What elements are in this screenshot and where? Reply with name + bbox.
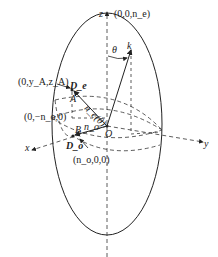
de-label: D_e — [69, 80, 87, 91]
a-coordinate-label: (0,y_A,z_A) — [18, 76, 69, 88]
top-point-label: (0,0,n_e) — [114, 8, 150, 20]
x-axis-label: x — [24, 142, 30, 153]
no-label: n_o — [84, 121, 99, 132]
theta-arc — [108, 56, 127, 59]
neg-no-label: (0,−n_o,0) — [24, 111, 66, 123]
point-b-label: B — [75, 124, 81, 135]
z-axis-label: z — [98, 8, 103, 19]
theta-label: θ — [112, 44, 117, 55]
k-base — [131, 132, 160, 134]
point-a-label: A — [69, 93, 77, 104]
y-axis-label: y — [203, 138, 209, 149]
b-coordinate-label: (n_o,0,0) — [73, 154, 110, 166]
index-ellipsoid-diagram: z (0,0,n_e) k θ (0,y_A,z_A) D_e A n_e(θ)… — [0, 0, 218, 257]
k-label: k — [127, 40, 132, 51]
origin-label: O — [105, 128, 112, 139]
diagram-svg: z (0,0,n_e) k θ (0,y_A,z_A) D_e A n_e(θ)… — [0, 0, 218, 257]
y-axis — [107, 126, 203, 142]
do-label: D_o — [65, 140, 83, 151]
k-vector — [107, 50, 131, 126]
